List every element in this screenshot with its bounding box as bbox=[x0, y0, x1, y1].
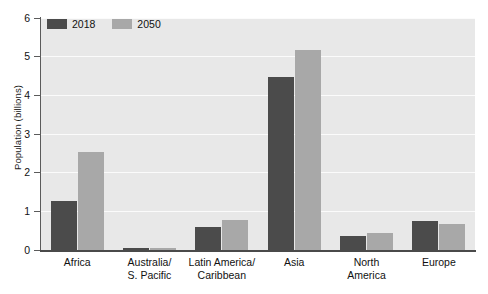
chart-legend: 2018 2050 bbox=[47, 19, 161, 30]
y-axis-line bbox=[40, 17, 41, 251]
y-axis-title: Population (billions) bbox=[12, 48, 23, 208]
y-axis-tick bbox=[34, 211, 40, 212]
legend-swatch-icon-2050 bbox=[112, 19, 132, 29]
y-axis-tick bbox=[34, 95, 40, 96]
y-axis-tick bbox=[34, 134, 40, 135]
bar-2018-europe bbox=[412, 221, 438, 250]
legend-label-2050: 2050 bbox=[137, 19, 160, 30]
population-bar-chart: Population (billions) 0123456 AfricaAust… bbox=[0, 0, 488, 294]
x-axis-label-northamerica: NorthAmerica bbox=[330, 256, 402, 281]
x-axis-label-asia: Asia bbox=[258, 256, 330, 269]
y-axis-tick-label: 6 bbox=[0, 13, 30, 24]
x-axis-label-australiaspacific: Australia/S. Pacific bbox=[113, 256, 185, 281]
y-axis-tick-label: 0 bbox=[0, 245, 30, 256]
gridline bbox=[41, 95, 475, 96]
plot-area bbox=[41, 18, 475, 250]
y-axis-tick-label: 5 bbox=[0, 51, 30, 62]
y-axis-tick bbox=[34, 250, 40, 251]
bar-2018-africa bbox=[51, 201, 77, 250]
bar-2050-europe bbox=[439, 224, 465, 250]
bar-2050-northamerica bbox=[367, 233, 393, 250]
x-axis-label-latinamericacaribbean: Latin America/Caribbean bbox=[186, 256, 258, 281]
y-axis-tick-label: 1 bbox=[0, 206, 30, 217]
bar-2018-northamerica bbox=[340, 236, 366, 250]
x-axis-label-europe: Europe bbox=[403, 256, 475, 269]
legend-label-2018: 2018 bbox=[72, 19, 95, 30]
legend-item-2050: 2050 bbox=[112, 19, 160, 30]
bar-2050-latinamericacaribbean bbox=[222, 220, 248, 250]
gridline bbox=[41, 211, 475, 212]
y-axis-tick-label: 3 bbox=[0, 129, 30, 140]
bar-2018-asia bbox=[268, 77, 294, 250]
bar-2018-latinamericacaribbean bbox=[195, 227, 221, 250]
gridline bbox=[41, 172, 475, 173]
gridline bbox=[41, 134, 475, 135]
legend-swatch-icon-2018 bbox=[47, 19, 67, 29]
bar-2050-africa bbox=[78, 152, 104, 250]
legend-item-2018: 2018 bbox=[47, 19, 95, 30]
y-axis-tick-label: 2 bbox=[0, 167, 30, 178]
y-axis-tick bbox=[34, 18, 40, 19]
y-axis-tick bbox=[34, 56, 40, 57]
x-axis-line bbox=[40, 250, 476, 252]
y-axis-tick-label: 4 bbox=[0, 90, 30, 101]
bar-2050-asia bbox=[295, 50, 321, 250]
gridline bbox=[41, 56, 475, 57]
x-axis-label-africa: Africa bbox=[41, 256, 113, 269]
y-axis-tick bbox=[34, 172, 40, 173]
